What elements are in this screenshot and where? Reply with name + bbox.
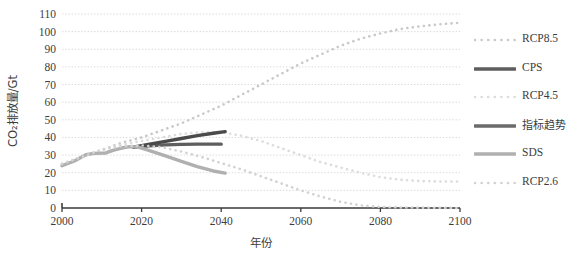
x-tick-label: 2000 [51, 215, 74, 227]
x-tick-label: 2020 [130, 215, 153, 227]
y-tick-label: 110 [39, 8, 56, 20]
series-RCP8.5 [62, 23, 460, 164]
legend-swatch-solid [474, 118, 516, 130]
legend-swatch-dotted [474, 89, 516, 101]
x-axis-title: 年份 [250, 236, 273, 250]
legend-label: RCP8.5 [522, 32, 558, 44]
legend-label: 指标趋势 [522, 116, 566, 132]
legend-label: SDS [522, 146, 543, 158]
legend-swatch-solid [474, 61, 516, 73]
legend-item-RCP8.5[interactable]: RCP8.5 [474, 24, 566, 53]
legend-item-RCP2.6[interactable]: RCP2.6 [474, 167, 566, 196]
legend-swatch-dotted [474, 32, 516, 44]
gridlines [62, 14, 460, 208]
legend-label: CPS [522, 61, 542, 73]
series-SDS [62, 147, 225, 173]
legend-label: RCP2.6 [522, 175, 558, 187]
y-axis-title: CO₂排放量/Gt [6, 75, 20, 147]
x-tick-label: 2060 [289, 215, 312, 227]
y-tick-label: 20 [45, 167, 57, 179]
legend-label: RCP4.5 [522, 89, 558, 101]
chart-container: 0102030405060708090100110 20002020204020… [0, 0, 566, 260]
y-axis-tick-labels: 0102030405060708090100110 [39, 8, 57, 214]
x-tick-label: 2080 [369, 215, 392, 227]
x-axis-tick-labels: 200020202040206020802100 [51, 215, 472, 227]
y-tick-label: 30 [45, 149, 57, 161]
y-tick-label: 100 [39, 26, 57, 38]
x-tick-label: 2040 [210, 215, 233, 227]
y-tick-label: 70 [45, 79, 57, 91]
data-series [62, 23, 460, 208]
legend-item-RCP4.5[interactable]: RCP4.5 [474, 81, 566, 110]
legend-item-CPS[interactable]: CPS [474, 53, 566, 82]
y-tick-label: 40 [45, 131, 57, 143]
y-tick-label: 10 [45, 184, 57, 196]
legend-swatch-solid [474, 146, 516, 158]
y-tick-label: 50 [45, 114, 57, 126]
legend-swatch-dotted [474, 175, 516, 187]
y-tick-label: 90 [45, 43, 57, 55]
x-tick-label: 2100 [449, 215, 472, 227]
y-tick-label: 80 [45, 61, 57, 73]
legend-item-SDS[interactable]: SDS [474, 138, 566, 167]
y-tick-label: 60 [45, 96, 57, 108]
y-tick-label: 0 [50, 202, 56, 214]
legend-item-指标趋势[interactable]: 指标趋势 [474, 110, 566, 139]
chart-legend: RCP8.5CPSRCP4.5指标趋势SDSRCP2.6 [474, 24, 566, 195]
series-RCP4.5 [62, 132, 460, 181]
